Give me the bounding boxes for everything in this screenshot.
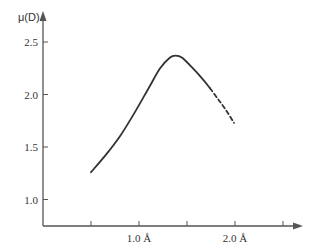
extrapolated-curve — [210, 88, 234, 123]
y-tick-label: 2.5 — [24, 36, 38, 48]
data-series — [91, 56, 234, 173]
dipole-moment-chart: 1.01.52.02.51.0 Å2.0 Å μ(D) — [0, 0, 314, 252]
axes — [40, 11, 304, 230]
y-tick-label: 1.5 — [24, 141, 38, 153]
y-tick-label: 1.0 — [24, 194, 38, 206]
y-axis-title: μ(D) — [18, 11, 40, 23]
y-axis-arrow-icon — [40, 11, 47, 21]
x-tick-label: 1.0 Å — [127, 232, 152, 244]
x-axis-arrow-icon — [293, 223, 303, 230]
ticks: 1.01.52.02.51.0 Å2.0 Å — [24, 36, 283, 244]
y-tick-label: 2.0 — [24, 89, 38, 101]
x-tick-label: 2.0 Å — [223, 232, 248, 244]
measured-curve — [91, 56, 210, 173]
